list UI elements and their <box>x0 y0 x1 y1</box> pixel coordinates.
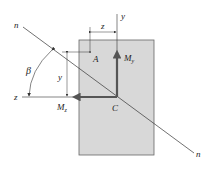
beta-arc <box>29 50 52 96</box>
label-y-dimension: y <box>57 72 62 82</box>
label-n-top: n <box>14 20 19 30</box>
label-beta: β <box>25 65 31 76</box>
point-a <box>89 51 91 53</box>
label-z-dimension: z <box>100 21 105 31</box>
label-point-a: A <box>92 54 99 64</box>
label-z-axis: z <box>13 92 18 102</box>
bending-diagram: n n z y A My β y z Mz C <box>0 0 214 169</box>
label-centroid: C <box>112 103 119 113</box>
label-moment-z: Mz <box>56 102 68 113</box>
label-y-axis: y <box>120 11 125 21</box>
label-n-bottom: n <box>196 149 201 159</box>
